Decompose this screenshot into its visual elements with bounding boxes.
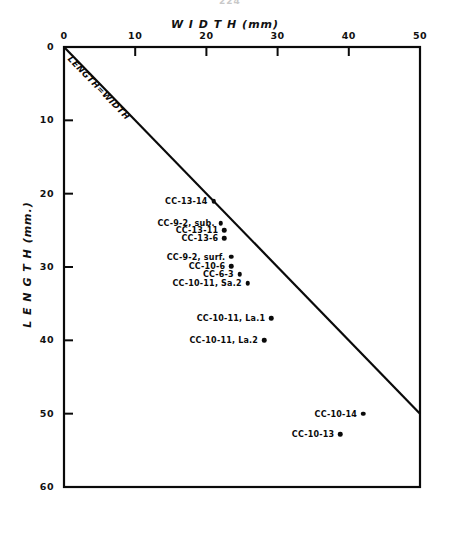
y-axis-ticks [64,120,73,413]
y-tick-label: 40 [28,334,54,345]
y-tick-label: 50 [28,408,54,419]
data-point-label: CC-13-14 [165,197,207,206]
data-point [338,432,343,437]
data-point-label: CC-10-11, La.1 [197,314,266,323]
x-tick-label: 50 [407,30,433,41]
x-axis-ticks [135,47,349,56]
data-point [229,254,234,259]
y-tick-label: 10 [28,114,54,125]
data-point [269,316,274,321]
data-point-label: CC-10-11, La.2 [190,336,259,345]
data-point [222,228,227,233]
data-point-label: CC-10-11, Sa.2 [172,279,241,288]
x-tick-label: 10 [122,30,148,41]
data-point-label: CC-10-14 [315,409,357,418]
y-tick-label: 20 [28,188,54,199]
data-point [229,264,234,269]
data-point [222,236,227,241]
data-point [245,281,250,286]
x-tick-label: 20 [193,30,219,41]
data-point [361,411,366,416]
x-tick-label: 0 [51,30,77,41]
y-tick-label: 30 [28,261,54,272]
data-point-label: CC-9-2, surf. [167,252,226,261]
figure: 224 W I D T H (mm) L E N G T H (mm.) LEN… [0,0,450,534]
data-point-label: CC-10-13 [292,430,334,439]
y-tick-label: 60 [28,481,54,492]
data-point [211,199,216,204]
x-tick-label: 30 [265,30,291,41]
data-point [262,338,267,343]
data-point [238,272,243,277]
data-point-label: CC-13-6 [182,234,219,243]
data-point-label: CC-6-3 [203,270,234,279]
x-tick-label: 40 [336,30,362,41]
y-tick-label: 0 [28,41,54,52]
data-point [218,221,223,226]
